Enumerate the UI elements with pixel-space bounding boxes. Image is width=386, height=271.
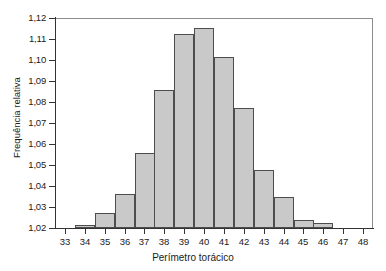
y-tick-label: 1,12 (12, 13, 46, 23)
x-tick-mark (303, 229, 304, 234)
x-tick-mark (204, 229, 205, 234)
y-tick-mark (49, 228, 55, 229)
y-tick-mark (49, 39, 55, 40)
x-axis-title: Perímetro torácico (0, 252, 386, 264)
bar (254, 170, 274, 228)
x-tick-mark (224, 229, 225, 234)
y-tick-mark (49, 123, 55, 124)
bar (214, 57, 234, 228)
x-tick-mark (244, 229, 245, 234)
x-tick-mark (85, 229, 86, 234)
y-tick-mark (49, 81, 55, 82)
x-tick-label: 48 (351, 236, 375, 247)
x-tick-mark (284, 229, 285, 234)
bar (135, 153, 155, 228)
x-tick-mark (363, 229, 364, 234)
y-tick-label: 1,11 (12, 34, 46, 44)
bar (154, 90, 174, 228)
x-tick-mark (65, 229, 66, 234)
x-tick-mark (264, 229, 265, 234)
bar (194, 28, 214, 228)
bar (115, 194, 135, 228)
y-tick-mark (49, 165, 55, 166)
y-tick-mark (49, 144, 55, 145)
y-tick-mark (49, 186, 55, 187)
x-tick-mark (184, 229, 185, 234)
y-axis-title: Frequência relativa (11, 48, 22, 188)
x-tick-mark (125, 229, 126, 234)
x-tick-mark (144, 229, 145, 234)
bar (95, 213, 115, 228)
histogram-chart: 1,021,031,041,051,061,071,081,091,101,11… (0, 0, 386, 271)
x-axis-line (55, 228, 374, 229)
bar (274, 197, 294, 228)
y-tick-label: 1,03 (12, 202, 46, 212)
y-tick-mark (49, 102, 55, 103)
bar (75, 225, 95, 228)
y-tick-mark (49, 207, 55, 208)
x-tick-mark (343, 229, 344, 234)
bar (313, 223, 333, 228)
y-tick-label: 1,02 (12, 223, 46, 233)
y-axis-line (55, 17, 56, 229)
x-tick-mark (105, 229, 106, 234)
x-tick-mark (164, 229, 165, 234)
x-tick-mark (323, 229, 324, 234)
y-tick-mark (49, 60, 55, 61)
y-tick-mark (49, 18, 55, 19)
bar (294, 220, 314, 228)
bar (174, 34, 194, 228)
bar (234, 108, 254, 228)
